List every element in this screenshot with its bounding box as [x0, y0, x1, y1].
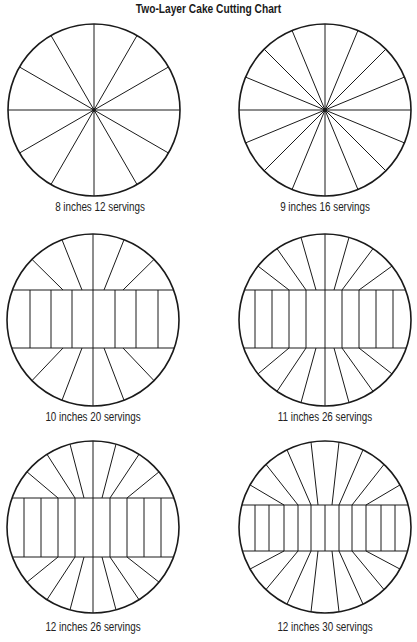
top-wedge-cut-line [127, 472, 159, 498]
top-wedge-cut-line [47, 454, 75, 498]
cut-line [325, 110, 386, 171]
bottom-wedge-cut-line [258, 348, 289, 374]
cut-line [51, 110, 94, 184]
bottom-wedge-cut-line [70, 557, 84, 610]
cut-line [94, 36, 137, 110]
bottom-wedge-cut-line [62, 348, 82, 400]
bottom-wedge-cut-line [287, 551, 311, 604]
cake-c1 [8, 24, 180, 196]
center-dot [92, 108, 96, 112]
top-wedge-cut-line [334, 237, 349, 290]
cake-caption-9in-16: 9 inches 16 servings [243, 200, 407, 214]
cut-line [325, 49, 386, 110]
bottom-wedge-cut-line [311, 551, 318, 612]
bottom-wedge-cut-line [127, 557, 159, 582]
bottom-wedge-cut-line [266, 551, 298, 590]
cut-line [94, 110, 168, 153]
top-wedge-cut-line [123, 259, 154, 290]
top-wedge-cut-line [352, 464, 384, 505]
cake-c3 [7, 234, 179, 406]
bottom-wedge-cut-line [342, 348, 373, 391]
bottom-wedge-cut-line [334, 348, 349, 403]
top-wedge-cut-line [104, 240, 124, 290]
bottom-wedge-cut-line [104, 348, 124, 400]
top-wedge-cut-line [250, 485, 284, 505]
top-wedge-cut-line [366, 485, 400, 505]
bottom-wedge-cut-line [47, 557, 75, 600]
cake-caption-11in-26: 11 inches 26 servings [243, 410, 407, 424]
cake-c2 [239, 24, 411, 196]
cut-line [264, 49, 325, 110]
bottom-wedge-cut-line [250, 551, 284, 569]
top-wedge-cut-line [27, 472, 58, 498]
cut-line [20, 110, 94, 153]
top-wedge-cut-line [311, 442, 318, 505]
cake-caption-12in-26: 12 inches 26 servings [11, 620, 175, 634]
bottom-wedge-cut-line [359, 348, 392, 374]
top-wedge-cut-line [62, 240, 82, 290]
cake-caption-10in-20: 10 inches 20 servings [11, 410, 175, 424]
cut-line [20, 67, 94, 110]
top-wedge-cut-line [258, 266, 289, 290]
bottom-wedge-cut-line [32, 348, 63, 381]
top-wedge-cut-line [339, 450, 363, 505]
top-wedge-cut-line [287, 450, 311, 505]
bottom-wedge-cut-line [27, 557, 58, 582]
center-dot [323, 108, 327, 112]
cake-caption-8in-12: 8 inches 12 servings [18, 200, 182, 214]
bottom-wedge-cut-line [102, 557, 116, 610]
bottom-wedge-cut-line [332, 551, 339, 612]
bottom-wedge-cut-line [123, 348, 154, 381]
cake-c4 [239, 234, 411, 406]
cake-cutting-diagram [0, 0, 417, 642]
cake-caption-12in-30: 12 inches 30 servings [243, 620, 407, 634]
top-wedge-cut-line [32, 259, 63, 290]
bottom-wedge-cut-line [301, 348, 316, 403]
cut-line [94, 67, 168, 110]
cake-c5 [7, 441, 179, 613]
cut-line [264, 110, 325, 171]
top-wedge-cut-line [266, 464, 298, 505]
bottom-wedge-cut-line [352, 551, 384, 590]
bottom-wedge-cut-line [339, 551, 363, 604]
top-wedge-cut-line [359, 266, 392, 290]
top-wedge-cut-line [301, 237, 316, 290]
top-wedge-cut-line [102, 444, 116, 498]
bottom-wedge-cut-line [366, 551, 400, 569]
cake-c6 [239, 441, 411, 613]
top-wedge-cut-line [332, 442, 339, 505]
cut-line [94, 110, 137, 184]
top-wedge-cut-line [70, 444, 84, 498]
cut-line [51, 36, 94, 110]
